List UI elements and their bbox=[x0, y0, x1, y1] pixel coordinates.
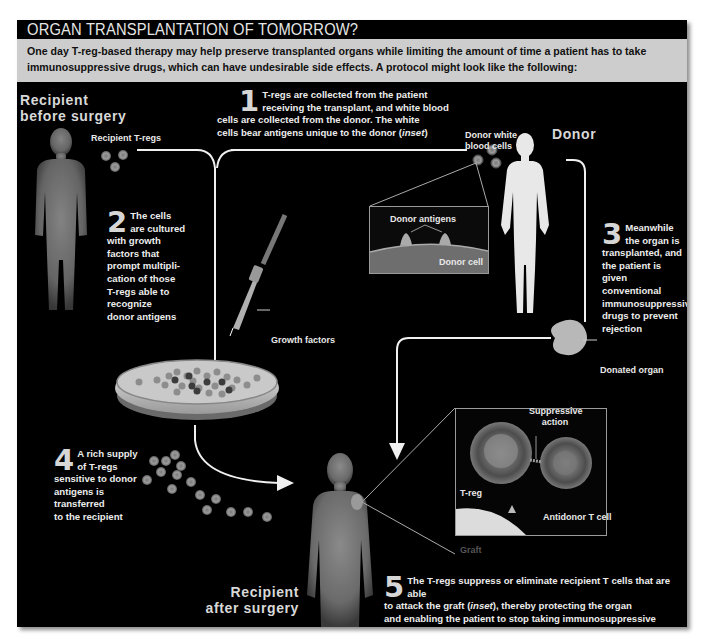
donated-organ-icon bbox=[551, 320, 587, 355]
pipette-icon bbox=[230, 215, 285, 336]
antidonor-tcell-label: Antidonor T cell bbox=[543, 512, 612, 523]
infographic-panel: ORGAN TRANSPLANTATION OF TOMORROW? One d… bbox=[17, 20, 687, 627]
suppressive-action-label: Suppressive action bbox=[529, 406, 581, 428]
graft-label: Graft bbox=[460, 545, 482, 556]
donor-figure bbox=[501, 133, 549, 313]
arrow-right-icon bbox=[277, 475, 294, 491]
petri-dish bbox=[115, 360, 279, 420]
recipient-after-figure bbox=[307, 453, 373, 627]
donor-label: Donor bbox=[552, 126, 596, 142]
step-3: 3 Meanwhile the organ is transplanted, a… bbox=[602, 222, 686, 335]
growth-factors-label: Growth factors bbox=[271, 335, 335, 346]
recipient-tregs-label: Recipient T-regs bbox=[91, 133, 161, 144]
recipient-before-label: Recipient before surgery bbox=[20, 92, 126, 124]
step-4: 4 A rich supply of T-regs sensitive to d… bbox=[54, 448, 154, 524]
treg-label: T-reg bbox=[460, 488, 482, 499]
step-5: 5 The T-regs suppress or eliminate recip… bbox=[384, 575, 684, 627]
step-2: 2 The cells are cultured with growth fac… bbox=[107, 210, 197, 323]
transplanted-organ-icon bbox=[351, 494, 363, 510]
recipient-after-label: Recipient after surgery bbox=[199, 584, 299, 616]
arrow-down-icon bbox=[389, 443, 405, 460]
transferred-tregs-cells bbox=[142, 450, 272, 522]
step-1: 1 T-regs are collected from the patient … bbox=[239, 89, 479, 139]
donor-cell-label: Donor cell bbox=[439, 257, 483, 268]
recipient-before-figure bbox=[35, 128, 87, 310]
donor-antigens-label: Donor antigens bbox=[390, 214, 456, 225]
recipient-tregs-cells bbox=[101, 150, 128, 172]
donated-organ-label: Donated organ bbox=[600, 365, 664, 376]
